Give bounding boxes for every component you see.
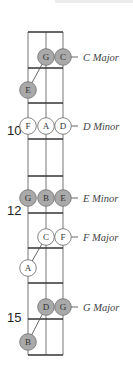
- note-letter: E: [25, 85, 31, 95]
- chord-label: G Major: [83, 302, 120, 313]
- fret-number: 15: [7, 310, 21, 325]
- note-letter: E: [60, 193, 66, 203]
- fret-number: 12: [7, 203, 21, 218]
- note-letter: G: [43, 52, 50, 62]
- note-letter: G: [25, 193, 32, 203]
- chord-label: C Major: [83, 52, 120, 63]
- note-letter: F: [25, 121, 30, 131]
- note-letter: B: [43, 193, 49, 203]
- fretboard: 101215GCEC MajorFADD MinorGBEE MinorCFAF…: [0, 0, 133, 373]
- note-letter: G: [60, 302, 67, 312]
- chord-diagram: 101215GCEC MajorFADD MinorGBEE MinorCFAF…: [0, 0, 133, 373]
- note-letter: A: [25, 263, 32, 273]
- chord-label: E Minor: [82, 193, 119, 204]
- note-letter: D: [60, 121, 67, 131]
- note-letter: C: [60, 52, 66, 62]
- note-letter: C: [43, 232, 49, 242]
- chord-label: D Minor: [82, 121, 120, 132]
- note-letter: B: [25, 337, 31, 347]
- chord-label: F Major: [82, 232, 119, 243]
- note-letter: A: [43, 121, 50, 131]
- note-letter: F: [60, 232, 65, 242]
- note-letter: D: [43, 302, 50, 312]
